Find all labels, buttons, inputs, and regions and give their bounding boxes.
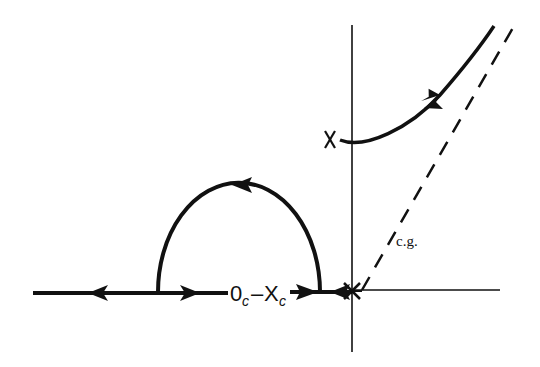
- zero-subscript: c: [242, 293, 249, 309]
- root-locus-diagram: 0 c – X c c.g.: [0, 0, 540, 367]
- dashed-asymptote: [362, 26, 514, 290]
- zero-label: 0: [230, 281, 242, 306]
- semicircular-breakaway-locus: [158, 177, 320, 293]
- pair-dash: –: [251, 281, 264, 306]
- real-axis-locus-segment: [33, 285, 228, 301]
- complex-pole-branch: [340, 26, 494, 142]
- asymptote-label: c.g.: [396, 233, 418, 249]
- complex-pole-marker: [325, 131, 335, 148]
- zero-pole-pair-label: 0 c – X c: [230, 281, 286, 309]
- pole-label: X: [264, 281, 279, 306]
- pole-subscript: c: [279, 293, 286, 309]
